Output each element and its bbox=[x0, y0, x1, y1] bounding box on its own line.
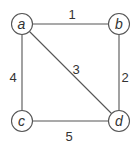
weight-a-c: 4 bbox=[9, 70, 16, 85]
weight-c-d: 5 bbox=[65, 129, 72, 144]
node-b: b bbox=[109, 14, 130, 35]
node-c: c bbox=[12, 111, 33, 132]
node-d-label: d bbox=[115, 113, 124, 129]
edge-a-d bbox=[22, 24, 119, 121]
node-d: d bbox=[109, 111, 130, 132]
edges bbox=[22, 24, 119, 121]
node-a-label: a bbox=[18, 16, 26, 32]
weight-a-d: 3 bbox=[72, 62, 79, 77]
weight-b-d: 2 bbox=[121, 70, 128, 85]
node-c-label: c bbox=[18, 113, 25, 129]
graph-diagram: 1 2 3 4 5 a b c d bbox=[0, 0, 140, 145]
node-b-label: b bbox=[115, 16, 123, 32]
node-a: a bbox=[12, 14, 33, 35]
weight-a-b: 1 bbox=[68, 7, 75, 22]
